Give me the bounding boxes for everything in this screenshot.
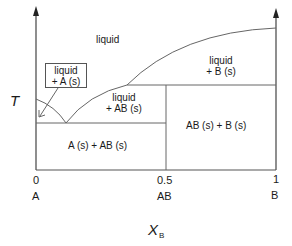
region-a-ab-solid: A (s) + AB (s)	[68, 140, 127, 151]
region-liquid-b: liquid + B (s)	[201, 55, 241, 77]
region-liquid-ab: liquid + AB (s)	[104, 92, 144, 114]
right-axis-arrow-icon	[273, 8, 279, 18]
liquidus-a-curve	[36, 99, 66, 123]
region-liquid-a-line2: + A (s)	[46, 76, 86, 87]
region-liquid-b-line2: + B (s)	[201, 66, 241, 77]
region-liquid-ab-line1: liquid	[104, 92, 144, 103]
left-axis-arrow-icon	[33, 6, 39, 16]
phase-diagram-lines	[0, 0, 292, 246]
region-liquid-b-line1: liquid	[201, 55, 241, 66]
x-axis-label: XB	[148, 221, 164, 240]
tick-05-name: AB	[157, 190, 172, 202]
region-liquid: liquid	[96, 34, 119, 45]
y-axis-label: T	[10, 92, 19, 109]
tick-0-value: 0	[33, 174, 39, 186]
region-liquid-a-line1: liquid	[46, 65, 86, 76]
tick-05-value: 0.5	[157, 174, 172, 186]
region-liquid-a-box: liquid + A (s)	[45, 63, 87, 88]
x-axis-label-main: X	[148, 221, 158, 238]
tick-1-name: B	[271, 189, 278, 201]
region-ab-b-solid: AB (s) + B (s)	[186, 120, 246, 131]
region-liquid-ab-line2: + AB (s)	[104, 103, 144, 114]
tick-1-value: 1	[273, 173, 279, 185]
tick-0-name: A	[32, 190, 39, 202]
x-axis-label-sub: B	[159, 231, 164, 240]
